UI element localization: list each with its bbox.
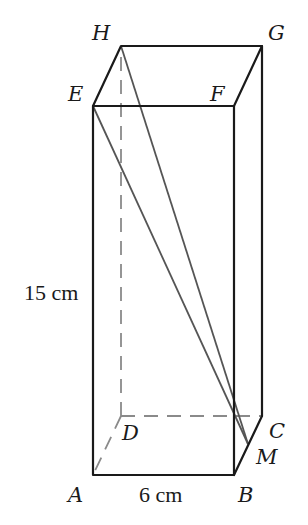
- label-H: H: [91, 21, 111, 45]
- label-D: D: [121, 421, 139, 445]
- edge-AD: [93, 416, 121, 475]
- label-B: B: [237, 483, 253, 507]
- height-measure: 15 cm: [24, 280, 78, 305]
- front-face: [93, 106, 234, 475]
- label-E: E: [67, 82, 83, 106]
- label-M: M: [255, 445, 278, 469]
- label-F: F: [209, 82, 226, 106]
- label-G: G: [268, 21, 285, 45]
- width-measure: 6 cm: [139, 482, 182, 507]
- label-C: C: [269, 419, 285, 443]
- segment-EM: [93, 106, 248, 444]
- cuboid-diagram: H G E F D C M A B 15 cm 6 cm: [0, 0, 308, 525]
- label-A: A: [66, 483, 83, 507]
- top-face: [93, 46, 262, 106]
